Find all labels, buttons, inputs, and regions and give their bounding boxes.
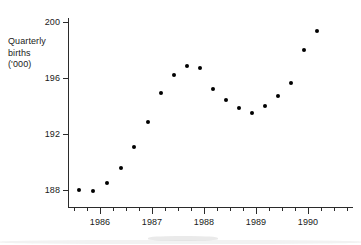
x-tick-minor (74, 207, 75, 211)
data-point (159, 91, 163, 95)
y-axis-title: Quarterly births ('000) (8, 36, 68, 71)
y-axis-title-line-3: ('000) (8, 59, 68, 71)
x-tick-minor (347, 207, 348, 211)
data-point (289, 81, 293, 85)
x-tick-minor (126, 207, 127, 211)
x-tick-minor (217, 207, 218, 211)
y-tick-label-188: 188 (34, 185, 60, 195)
x-tick-minor (334, 207, 335, 211)
x-tick-minor (243, 207, 244, 211)
x-tick-minor (230, 207, 231, 211)
y-tick-label-196: 196 (34, 73, 60, 83)
data-point (119, 166, 123, 170)
scan-artifact (0, 240, 361, 244)
data-point (211, 87, 215, 91)
data-point (185, 64, 189, 68)
x-tick-minor (113, 207, 114, 211)
x-tick-label-1990: 1990 (292, 217, 324, 227)
data-point (237, 106, 241, 110)
data-point (198, 66, 202, 70)
y-tick-label-200: 200 (34, 17, 60, 27)
x-tick-label-1987: 1987 (136, 217, 168, 227)
x-tick-label-1986: 1986 (84, 217, 116, 227)
data-point (276, 94, 280, 98)
x-tick-label-1988: 1988 (188, 217, 220, 227)
y-axis-line (68, 18, 69, 208)
data-point (263, 104, 267, 108)
data-point (105, 181, 109, 185)
y-tick-188 (63, 190, 69, 191)
x-tick-minor (87, 207, 88, 211)
data-point (132, 145, 136, 149)
y-axis-title-line-1: Quarterly (8, 36, 68, 48)
x-axis-line (68, 207, 353, 208)
x-tick-minor (191, 207, 192, 211)
x-tick-major-1986 (100, 207, 101, 214)
data-point (146, 120, 150, 124)
x-tick-minor (321, 207, 322, 211)
x-tick-minor (295, 207, 296, 211)
y-axis-title-line-2: births (8, 48, 68, 60)
y-tick-196 (63, 78, 69, 79)
births-scatter-chart: Quarterly births ('000) 200 196 192 188 … (0, 0, 361, 245)
x-tick-major-1990 (308, 207, 309, 214)
data-point (91, 189, 95, 193)
x-tick-minor (282, 207, 283, 211)
x-tick-minor (165, 207, 166, 211)
x-tick-label-1989: 1989 (240, 217, 272, 227)
data-point (224, 98, 228, 102)
data-point (315, 29, 319, 33)
x-tick-minor (178, 207, 179, 211)
x-tick-minor (139, 207, 140, 211)
y-tick-label-192: 192 (34, 129, 60, 139)
x-tick-major-1988 (204, 207, 205, 214)
y-tick-192 (63, 134, 69, 135)
x-tick-major-1987 (152, 207, 153, 214)
x-tick-minor (269, 207, 270, 211)
x-tick-major-1989 (256, 207, 257, 214)
data-point (77, 188, 81, 192)
y-tick-200 (63, 22, 69, 23)
data-point (250, 111, 254, 115)
data-point (302, 48, 306, 52)
data-point (172, 73, 176, 77)
